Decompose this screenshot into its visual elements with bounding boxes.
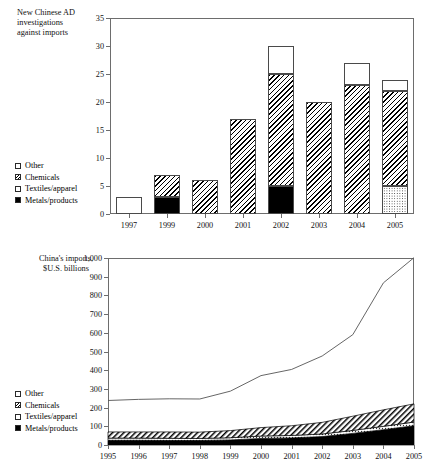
y-tick-label: 5 [82,182,104,191]
y-tick-mark [106,18,110,19]
y-tick-label: 30 [82,42,104,51]
bar-segment [344,63,370,85]
y-tick-label: 0 [82,210,104,219]
y-tick-label: 35 [82,14,104,23]
x-tick-mark [281,214,282,218]
y-tick-label: 15 [82,126,104,135]
legend-label-metals: Metals/products [25,195,78,207]
x-tick-mark [319,214,320,218]
y-tick-mark [106,46,110,47]
legend-label-chemicals: Chemicals [25,172,60,184]
bar-segment [230,119,256,214]
chart-panel-china-imports: China's imports, $U.S. billions Other Ch… [0,250,436,474]
x-tick-mark [108,445,109,449]
bar-segment [154,175,180,197]
legend-item-metals: Metals/products [15,195,78,207]
legend-swatch-other-icon [15,163,21,169]
bar-segment [268,186,294,214]
x-tick-mark [205,214,206,218]
y-tick-mark [106,214,110,215]
total-imports-line [108,258,414,401]
chart-panel-ad-investigations: New Chinese AD investigations against im… [0,0,436,248]
x-tick-mark [383,445,384,449]
x-tick-mark [139,445,140,449]
bar-segment [154,197,180,214]
bar-segment [382,186,408,214]
legend-label-other: Other [25,160,44,172]
x-tick-label: 2005 [394,452,434,461]
x-tick-label: 2005 [373,221,417,230]
legend-ad-investigations: Other Chemicals Textiles/apparel Metals/… [15,160,78,206]
x-tick-mark [167,214,168,218]
x-tick-mark [353,445,354,449]
x-tick-mark [322,445,323,449]
legend-swatch-textiles-icon [15,186,21,192]
area-chart-svg [0,250,436,474]
two-panel-figure: New Chinese AD investigations against im… [0,0,436,474]
legend-label-textiles: Textiles/apparel [25,183,77,195]
x-tick-mark [169,445,170,449]
y-tick-label: 25 [82,70,104,79]
bar-segment [268,46,294,74]
bar-segment [382,80,408,91]
y-tick-mark [106,74,110,75]
y-tick-mark [106,186,110,187]
chart-title-ad-investigations: New Chinese AD investigations against im… [17,8,103,38]
y-tick-label: 10 [82,154,104,163]
bar-segment [116,197,142,214]
bar-segment [268,74,294,186]
x-tick-mark [129,214,130,218]
legend-swatch-metals-icon [15,197,21,203]
x-tick-mark [261,445,262,449]
legend-swatch-chemicals-icon [15,174,21,180]
x-tick-mark [395,214,396,218]
x-tick-mark [200,445,201,449]
y-tick-label: 20 [82,98,104,107]
legend-item-textiles: Textiles/apparel [15,183,78,195]
y-tick-mark [106,130,110,131]
bar-segment [344,85,370,214]
bar-segment [192,180,218,214]
x-tick-mark [357,214,358,218]
x-tick-mark [414,445,415,449]
bar-segment [382,91,408,186]
x-tick-mark [230,445,231,449]
x-tick-mark [292,445,293,449]
x-tick-mark [243,214,244,218]
legend-item-chemicals: Chemicals [15,172,78,184]
y-tick-mark [106,102,110,103]
y-tick-mark [106,158,110,159]
legend-item-other: Other [15,160,78,172]
bar-segment [306,102,332,214]
